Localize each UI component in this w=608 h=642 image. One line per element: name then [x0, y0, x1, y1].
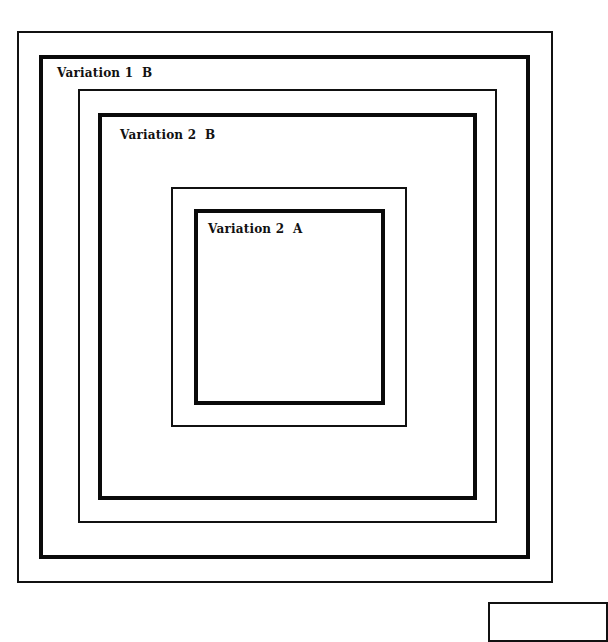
variation-2a-box	[194, 209, 385, 405]
variation-2a-label: Variation 2 A	[208, 222, 302, 236]
variation-1b-label: Variation 1 B	[57, 66, 152, 80]
partial-box-bottom-right	[488, 602, 608, 642]
variation-2b-label: Variation 2 B	[120, 128, 215, 142]
